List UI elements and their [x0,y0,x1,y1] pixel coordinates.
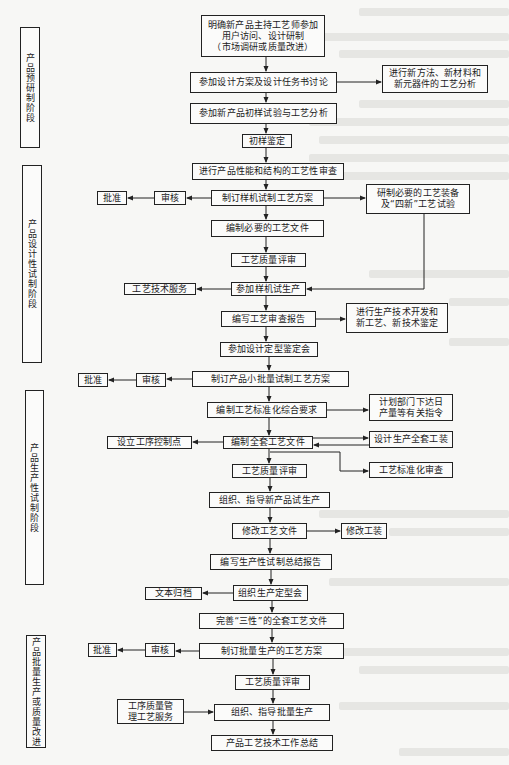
node-archive: 文本归档 [145,587,202,600]
node-modify-tooling: 修改工装 [341,523,387,539]
node-process-review: 进行产品性能和结构的工艺性审查 [192,163,344,180]
node-prototype-appraisal: 初样鉴定 [242,134,292,148]
node-approve-3: 批准 [88,643,117,657]
node-planning-order: 计划部门下达日 产量等有关指令 [369,394,453,421]
node-modify-docs: 修改工艺文件 [232,523,307,539]
node-review-2: 审核 [136,373,166,387]
stage-label: 产品批量生产或质量改进 [31,637,41,747]
stage-mass-production: 产品批量生产或质量改进 [26,635,46,748]
node-mass-plan: 制订批量生产的工艺方案 [199,643,344,659]
node-necessary-docs: 编制必要的工艺文件 [211,220,324,237]
node-prototype-test: 参加新产品初样试验与工艺分析 [190,103,337,124]
node-small-batch-plan: 制订产品小批量试制工艺方案 [192,371,349,387]
node-review-report: 编写工艺审查报告 [221,311,316,327]
node-full-tooling: 设计生产全套工装 [369,431,453,448]
node-complete-docs: 完善“三性”的全套工艺文件 [199,613,344,629]
node-quality-review-1: 工艺质量评审 [231,253,306,267]
node-sample-trial-production: 参加样机试生产 [231,282,306,296]
node-review-1: 审核 [154,191,186,205]
node-tech-development: 进行生产技术开发和 新工艺、新技术鉴定 [346,303,448,333]
node-sample-plan: 制订样机试制工艺方案 [211,190,324,206]
node-review-3: 审核 [145,643,175,657]
stage-label: 产品预研制阶段 [25,53,35,123]
stage-label: 产品设计性试制阶段 [27,219,37,309]
node-full-docs: 编制全套工艺文件 [223,436,313,449]
node-standardization-review: 工艺标准化审查 [369,462,453,478]
node-control-points: 设立工序控制点 [107,436,192,449]
node-mass-production: 组织、指导批量生产 [214,704,330,721]
node-work-summary: 产品工艺技术工作总结 [211,735,333,751]
node-process-quality-service: 工序质量管 理工艺服务 [117,699,184,724]
stage-production-trial: 产品生产性试制阶段 [25,390,44,585]
node-standardization-req: 编制工艺标准化综合要求 [207,402,327,418]
node-approve-2: 批准 [78,373,108,387]
stage-design-trial: 产品设计性试制阶段 [22,165,42,363]
node-define-product: 明确新产品主持工艺师参加 用户访问、设计研制 （市场调研或质量改进） [201,15,325,57]
node-new-method-analysis: 进行新方法、新材料和 新元器件的工艺分析 [382,65,488,93]
node-new-product-trial: 组织、指导新产品试生产 [209,492,330,508]
stage-preresearch: 产品预研制阶段 [20,27,40,148]
node-quality-review-3: 工艺质量评审 [235,675,310,690]
stage-label: 产品生产性试制阶段 [30,443,40,533]
node-tooling-research: 研制必要的工艺装备 及“四新”工艺试验 [366,184,470,214]
node-quality-review-2: 工艺质量评审 [232,464,307,478]
node-design-finalization: 参加设计定型鉴定会 [220,342,318,357]
node-trial-summary: 编写生产性试制总结报告 [210,554,332,570]
node-production-finalization: 组织生产定型会 [233,585,308,601]
node-tech-service: 工艺技术服务 [124,283,196,295]
node-design-discussion: 参加设计方案及设计任务书讨论 [190,72,337,93]
node-approve-1: 批准 [97,191,127,205]
